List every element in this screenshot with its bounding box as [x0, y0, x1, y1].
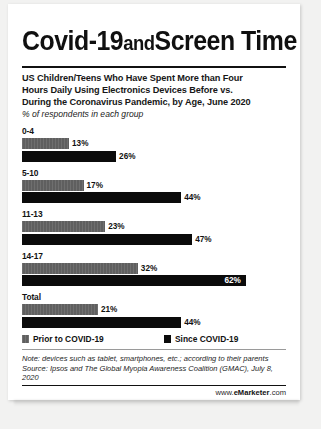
bar-prior-covid [22, 263, 138, 274]
bar-row: 32% [22, 263, 286, 274]
legend-label-prior: Prior to COVID-19 [33, 334, 104, 344]
bar-group: Total21%44% [22, 292, 286, 328]
subtitle-line-2: Hours Daily Using Electronics Devices Be… [22, 84, 286, 96]
page-shadow [14, 400, 299, 406]
title-part-screen-time: Screen Time [155, 26, 297, 56]
bar-row: 17% [22, 180, 286, 191]
bar-row: 21% [22, 304, 286, 315]
bar-prior-covid [22, 180, 84, 191]
note-line-1: Note: devices such as tablet, smartphone… [22, 354, 286, 364]
footer-divider [22, 349, 286, 350]
bar-row: 44% [22, 317, 286, 328]
bar-chart: 0-413%26%5-1017%44%11-1323%47%14-1732%62… [22, 126, 286, 328]
subtitle-line-3: During the Coronavirus Pandemic, by Age,… [22, 96, 286, 108]
bar-since-covid [22, 275, 246, 286]
chart-unit-label: % of respondents in each group [22, 109, 286, 119]
bar-since-covid [22, 317, 181, 328]
legend-swatch-since-icon [164, 335, 171, 343]
page-title: Covid-19andScreen Time [22, 28, 265, 55]
bar-group-label: Total [22, 292, 286, 302]
chart-footer: Note: devices such as tablet, smartphone… [22, 354, 286, 397]
chart-subtitle: US Children/Teens Who Have Spent More th… [22, 72, 286, 108]
title-divider [22, 66, 286, 68]
legend-item-since: Since COVID-19 [164, 334, 238, 344]
url-prefix: www. [215, 388, 233, 397]
report-page: Covid-19andScreen Time US Children/Teens… [8, 4, 300, 400]
bar-group: 5-1017%44% [22, 168, 286, 204]
bar-group-label: 11-13 [22, 209, 286, 219]
bar-group: 0-413%26% [22, 126, 286, 162]
page-content: Covid-19andScreen Time US Children/Teens… [22, 14, 286, 397]
bar-value-label: 21% [101, 305, 117, 314]
bar-value-label: 26% [119, 152, 135, 161]
url-brand: eMarketer [234, 388, 270, 397]
bar-value-label: 17% [87, 181, 103, 190]
bar-row: 44% [22, 192, 286, 203]
bar-group-label: 14-17 [22, 251, 286, 261]
bar-value-label: 13% [72, 139, 88, 148]
bar-row: 13% [22, 138, 286, 149]
bar-row: 26% [22, 151, 286, 162]
title-part-and: and [123, 32, 154, 54]
bar-since-covid [22, 192, 181, 203]
note-line-3: 2020 [22, 373, 286, 383]
subtitle-line-1: US Children/Teens Who Have Spent More th… [22, 72, 286, 84]
legend-swatch-prior-icon [22, 335, 29, 343]
chart-legend: Prior to COVID-19 Since COVID-19 [22, 334, 286, 344]
footer-note: Note: devices such as tablet, smartphone… [22, 354, 286, 383]
bar-value-label: 44% [184, 193, 200, 202]
bar-value-label: 62% [224, 276, 240, 285]
bar-prior-covid [22, 221, 105, 232]
legend-label-since: Since COVID-19 [175, 334, 238, 344]
bar-value-label: 47% [195, 235, 211, 244]
bar-group: 11-1323%47% [22, 209, 286, 245]
bar-prior-covid [22, 304, 98, 315]
bar-value-label: 23% [108, 222, 124, 231]
bar-row: 23% [22, 221, 286, 232]
bar-row: 47% [22, 234, 286, 245]
bar-row: 62% [22, 275, 286, 286]
bar-group: 14-1732%62% [22, 251, 286, 287]
bar-group-label: 5-10 [22, 168, 286, 178]
emarketer-url: www.eMarketer.com [22, 388, 286, 397]
url-suffix: .com [270, 388, 286, 397]
source-divider [22, 385, 286, 387]
bar-value-label: 44% [184, 318, 200, 327]
bar-value-label: 32% [141, 264, 157, 273]
bar-since-covid [22, 234, 192, 245]
title-part-covid: Covid-19 [22, 26, 123, 56]
bar-prior-covid [22, 138, 69, 149]
legend-item-prior: Prior to COVID-19 [22, 334, 164, 344]
bar-since-covid [22, 151, 116, 162]
note-line-2: Source: Ipsos and The Global Myopia Awar… [22, 364, 286, 374]
bar-group-label: 0-4 [22, 126, 286, 136]
